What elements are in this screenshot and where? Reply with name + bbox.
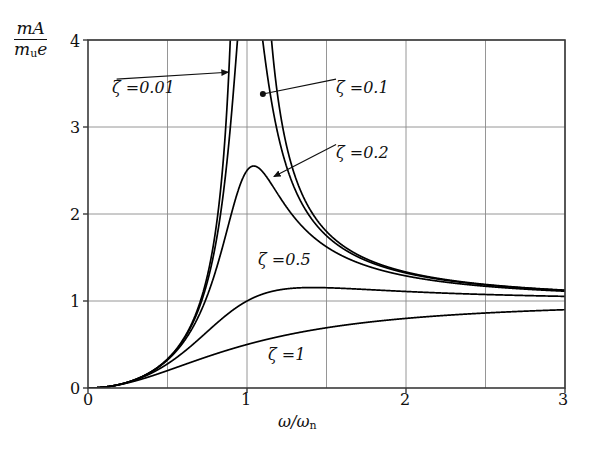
y-axis-label-den-m: m [14, 39, 30, 59]
y-tick-label-0: 0 [70, 379, 80, 398]
y-tick-label-4: 4 [70, 32, 80, 51]
x-tick-label-1: 1 [241, 390, 251, 409]
x-tick-label-2: 2 [400, 390, 410, 409]
y-axis-label: mA mue [14, 20, 47, 60]
y-tick-label-3: 3 [70, 118, 80, 137]
x-axis-label-omega: ω/ω [278, 412, 309, 431]
curve-label-zeta-0-1: ζ =0.1 [336, 78, 389, 97]
y-tick-label-1: 1 [70, 292, 80, 311]
curve-label-zeta-0-01: ζ =0.01 [112, 78, 175, 97]
x-axis-label: ω/ωn [278, 412, 317, 432]
curve-label-zeta-0-2: ζ =0.2 [336, 143, 389, 162]
y-tick-label-2: 2 [70, 205, 80, 224]
curve-label-zeta-0-5: ζ =0.5 [258, 250, 311, 269]
x-tick-label-0: 0 [83, 390, 93, 409]
y-axis-label-den-e: e [37, 39, 47, 59]
chart-figure: mA mue ω/ωn 4 3 2 1 0 0 1 2 3 ζ =0.01 ζ … [0, 0, 591, 450]
plot-canvas [0, 0, 591, 450]
x-axis-label-sub: n [309, 419, 316, 432]
x-tick-label-3: 3 [558, 390, 568, 409]
y-axis-label-denominator: mue [14, 40, 47, 60]
curve-label-zeta-1: ζ =1 [268, 345, 305, 364]
y-axis-label-numerator: mA [14, 20, 47, 40]
